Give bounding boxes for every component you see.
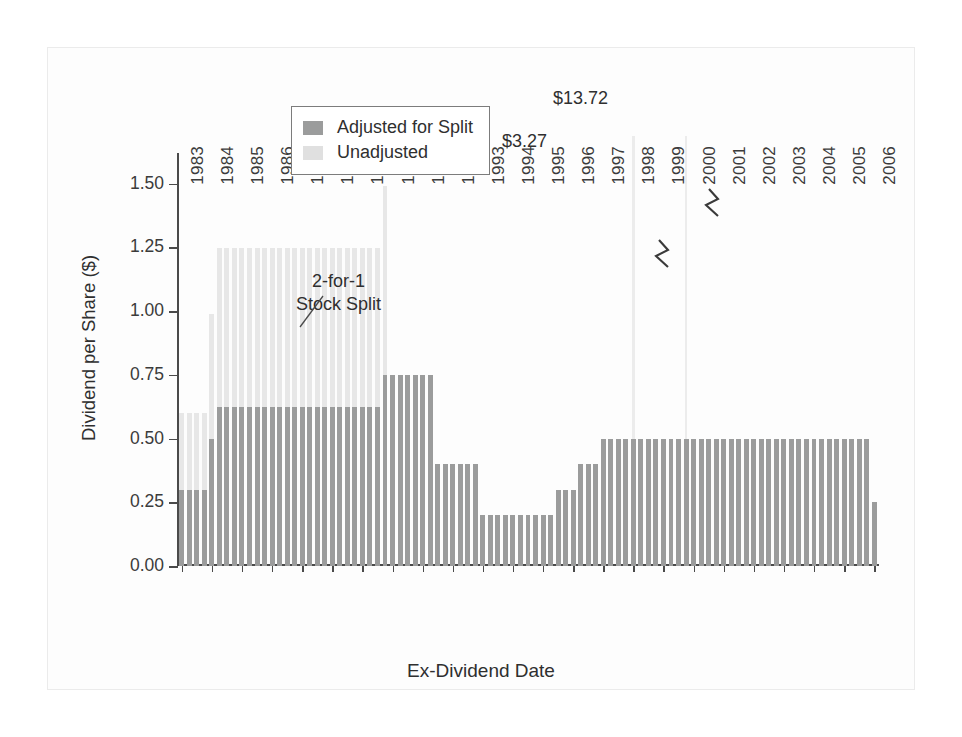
bar [646,136,651,566]
bar-segment-adjusted [796,439,801,566]
bar [352,136,357,566]
annotation-stock-split-line1: 2-for-1 [296,270,381,293]
x-tick-mark [784,566,785,572]
x-tick-label: 2006 [880,146,900,185]
bar-segment-adjusted [458,464,463,566]
bar [533,136,538,566]
bar-segment-adjusted [751,439,756,566]
y-tick-label: 1.25 [130,237,164,258]
bar-segment-adjusted [518,515,523,566]
bar-segment-adjusted [669,439,674,566]
bar-segment-adjusted [631,439,636,566]
bar-segment-adjusted [608,439,613,566]
bar-segment-adjusted [827,439,832,566]
bar-segment-adjusted [789,439,794,566]
bar [518,136,523,566]
bar [729,136,734,566]
bar-segment-adjusted [706,439,711,566]
bar-segment-adjusted [179,490,184,566]
bar [593,136,598,566]
legend-item-adjusted: Adjusted for Split [303,115,473,140]
bar [864,136,869,566]
bar-segment-adjusted [270,407,275,566]
bar [360,136,365,566]
bar [684,136,689,566]
bar [488,136,493,566]
bar-segment-adjusted [541,515,546,566]
bar [247,136,252,566]
bar-segment-unadjusted [247,248,252,407]
bar-segment-adjusted [337,407,342,566]
bar-segment-unadjusted [202,413,207,489]
bar [789,136,794,566]
bar-segment-adjusted [277,407,282,566]
bar [857,136,862,566]
bar-segment-unadjusted [277,248,282,407]
bar [759,136,764,566]
bar-segment-adjusted [510,515,515,566]
bar [375,136,380,566]
bar [736,136,741,566]
bar-segment-adjusted [684,439,689,566]
y-tick-mark [169,566,178,568]
x-tick-mark [814,566,815,572]
bar-segment-adjusted [390,375,395,566]
bar [842,136,847,566]
bar-segment-adjusted [556,490,561,566]
bar-segment-adjusted [300,407,305,566]
annotation-spike-1998: $3.27 [502,131,547,152]
x-tick-mark [453,566,454,572]
bar [556,136,561,566]
y-tick-mark [169,439,178,441]
bar [631,136,636,566]
bar-segment-adjusted [239,407,244,566]
bar [812,136,817,566]
bar [285,136,290,566]
x-tick-mark [483,566,484,572]
bar-segment-unadjusted [239,248,244,407]
y-tick-label: 1.50 [130,173,164,194]
y-tick-label: 0.00 [130,555,164,576]
bar [827,136,832,566]
bar [292,136,297,566]
legend-label-unadjusted: Unadjusted [337,142,428,163]
bar [661,136,666,566]
bar-segment-adjusted [653,439,658,566]
bar [849,136,854,566]
bar-segment-adjusted [593,464,598,566]
bar [224,136,229,566]
bar [676,136,681,566]
bar [638,136,643,566]
bar [450,136,455,566]
x-tick-mark [663,566,664,572]
bar [804,136,809,566]
bar-segment-unadjusted [285,248,290,407]
bar-segment-adjusted [473,464,478,566]
bar-segment-adjusted [435,464,440,566]
chart-figure: Dividend per Share ($) 0.000.250.500.751… [47,47,915,690]
bar [541,136,546,566]
bar-segment-adjusted [721,439,726,566]
y-tick-label: 0.50 [130,428,164,449]
bar-segment-adjusted [699,439,704,566]
bar [510,136,515,566]
bar-segment-adjusted [495,515,500,566]
bar [179,136,184,566]
bar [751,136,756,566]
plot-area: 0.000.250.500.751.001.251.50 19831984198… [178,136,878,566]
bar [714,136,719,566]
bar [330,136,335,566]
y-tick-mark [169,502,178,504]
bar [322,136,327,566]
bar [834,136,839,566]
bar [239,136,244,566]
bar-segment-adjusted [420,375,425,566]
bar [443,136,448,566]
bar-segment-unadjusted [383,186,388,375]
x-tick-mark [182,566,183,572]
bar-segment-adjusted [526,515,531,566]
bar [383,136,388,566]
bar [337,136,342,566]
x-tick-mark [362,566,363,572]
x-tick-mark [242,566,243,572]
